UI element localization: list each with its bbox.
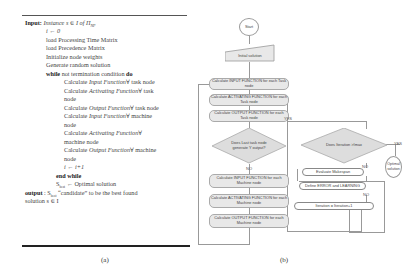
fn: Output Function <box>89 104 130 111</box>
pre: Calculate <box>64 129 89 136</box>
pre: Calculate <box>64 112 89 119</box>
fn: Input Function <box>89 78 126 85</box>
t2: “candidate” to be the best found <box>56 189 137 196</box>
algo-line: i ← 0 <box>46 27 60 34</box>
t: : S <box>43 189 51 196</box>
algo-line: machine node <box>64 138 99 145</box>
pre: Calculate <box>64 87 89 94</box>
pre: Calculate <box>64 146 89 153</box>
evaluate-node: Evaluate Makespan <box>302 168 364 176</box>
algo-line-while: while not termination condition do <box>46 70 133 77</box>
connector <box>361 209 362 232</box>
start-node: Start <box>239 18 259 36</box>
while-cond: not termination condition <box>60 70 126 77</box>
algo-line: i ← i+1 <box>64 163 84 170</box>
activating-task-node: Calculate ACTIVATING FUNCTION for each T… <box>209 94 289 106</box>
algo-line: Generate random solution <box>46 61 110 68</box>
fn: Input Function <box>89 112 126 119</box>
connector <box>349 232 385 233</box>
label-yes-iter: YES <box>394 141 402 146</box>
t2: ← Optimal solution <box>65 180 116 187</box>
decision-iter-node: Does Iteration >Imax <box>315 140 373 150</box>
keyword-input: Input: <box>25 19 42 26</box>
input-sub: NP <box>90 23 95 28</box>
algo-line: solution s ∈ I <box>25 197 59 204</box>
algo-line: Calculate Activating Function∀ <box>64 129 142 136</box>
connector <box>349 210 350 232</box>
label-no-define: NO <box>363 192 369 197</box>
bottom-rule <box>22 245 190 247</box>
fn: Activating Function <box>89 129 138 136</box>
input-machine-node: Calculate INPUT FUNCTION for each Machin… <box>209 174 289 188</box>
algo-line: load Precedence Matrix <box>46 44 105 51</box>
activating-machine-node: Calculate ACTIVATING FUNCTION for each M… <box>209 194 289 208</box>
input-task-node: Calculate INPUT FUNCTION for each Task n… <box>209 78 289 90</box>
connector <box>198 84 209 85</box>
post: ∀ task node <box>130 104 159 111</box>
fn: Activating Function <box>89 87 138 94</box>
connector <box>384 181 385 232</box>
post: ∀ <box>138 129 142 136</box>
connector <box>249 228 250 244</box>
algo-line: Calculate Output Function∀ task node <box>64 104 159 111</box>
connector <box>249 36 250 44</box>
pre: Calculate <box>64 104 89 111</box>
decision-last-node: Does Last task node generate Y output? <box>225 138 273 154</box>
optimal-solution-node: Optimal solution <box>385 156 402 178</box>
post: ∀ machine <box>126 112 152 119</box>
label-no: NO <box>246 166 252 171</box>
algorithm-panel: Input: Instance s ∈ I of ΠNP i ← 0 load … <box>0 0 195 279</box>
label-yes: YES <box>284 116 292 121</box>
algo-line: Initialize node weights <box>46 53 102 60</box>
algo-line: node <box>64 121 76 128</box>
connector <box>198 244 250 245</box>
connector <box>297 169 298 181</box>
connector <box>287 121 367 122</box>
algo-line: Calculate Input Function∀ task node <box>64 78 155 85</box>
keyword-while: while <box>46 70 60 77</box>
post: ∀ machine <box>130 146 156 153</box>
post: ∀ task node <box>126 78 155 85</box>
iteration-node: Iteration = Iteration+1 <box>294 202 374 210</box>
input-text: Instance s ∈ I of Π <box>42 19 91 26</box>
algo-line: load Processing Time Matrix <box>46 36 118 43</box>
algo-line: Calculate Output Function∀ machine <box>64 146 156 153</box>
connector <box>249 62 250 78</box>
pre: Calculate <box>64 78 89 85</box>
algo-line: Calculate Input Function∀ machine <box>64 112 152 119</box>
initial-solution-node: Initial solution <box>225 50 275 62</box>
algo-line: node <box>64 155 76 162</box>
output-task-node: Calculate OUTPUT FUNCTION for each Task … <box>209 110 289 122</box>
flowchart-panel: Start Initial solution Calculate INPUT F… <box>195 0 402 279</box>
keyword-output: output <box>25 189 43 196</box>
connector <box>198 84 199 244</box>
post: ∀ task <box>138 87 153 94</box>
caption-b: (b) <box>280 256 288 264</box>
fn: Output Function <box>89 146 130 153</box>
algo-line-input: Input: Instance s ∈ I of ΠNP <box>25 19 96 30</box>
keyword-do: do <box>126 70 133 77</box>
algo-line-endwhile: end while <box>56 172 81 179</box>
output-machine-node: Calculate OUTPUT FUNCTION for each Machi… <box>209 214 289 228</box>
caption-a: (a) <box>101 256 109 264</box>
algo-line: Calculate Activating Function∀ task <box>64 87 154 94</box>
top-rule <box>22 15 187 16</box>
algo-line: node <box>64 95 76 102</box>
define-node: Define ERROR and LEARNING <box>299 182 366 190</box>
